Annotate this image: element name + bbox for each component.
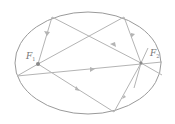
arrow-icon — [110, 42, 116, 47]
arrow-icon — [131, 33, 135, 38]
arrow-icon — [75, 86, 80, 91]
arrowheads — [44, 31, 135, 99]
ray-bottom-f2 — [114, 63, 141, 112]
focus-f2-label: F2 — [149, 48, 159, 59]
focus-f1-point — [36, 62, 40, 66]
ray-f1-top-right — [38, 17, 124, 64]
focus-f1-label: F1 — [25, 51, 35, 62]
arrow-icon — [44, 31, 50, 36]
ellipse-reflection-diagram: F1 F2 — [0, 0, 175, 124]
ray-f2-extension-1 — [141, 63, 162, 75]
arrow-icon — [90, 67, 95, 72]
ray-top-left-f2 — [52, 17, 141, 63]
ray-f2-extension-3 — [134, 63, 141, 88]
focus-f2-point — [139, 61, 142, 64]
ray-f2-extension-2 — [141, 48, 148, 63]
ray-top-right-f2 — [124, 17, 141, 63]
